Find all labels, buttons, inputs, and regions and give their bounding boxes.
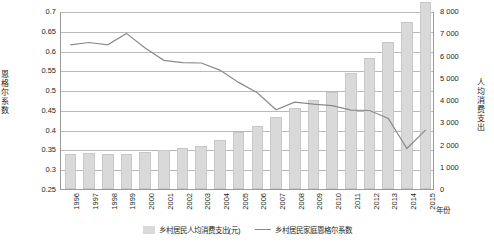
x-axis-tick: 2003: [203, 193, 212, 210]
x-axis-tick: 1998: [110, 193, 119, 210]
y-axis-right-tick: 8 000: [440, 8, 486, 16]
x-axis-tick: 2004: [222, 193, 231, 210]
y-axis-right-tick: 0: [440, 186, 486, 194]
y-axis-right-tick: 1 000: [440, 164, 486, 172]
y-axis-left-tick: 0.4: [16, 127, 56, 135]
legend-item: 乡村居民人均消费支出(元): [143, 224, 241, 235]
x-axis-tick: 1996: [72, 193, 81, 210]
chart-container: 恩格尔系数 人均消费支出 年份 0.70.650.60.550.50.450.4…: [0, 0, 494, 246]
legend-item: 乡村居民家庭恩格尔系数: [255, 224, 352, 235]
x-axis-tick: 2002: [185, 193, 194, 210]
legend-label: 乡村居民人均消费支出(元): [159, 224, 241, 235]
plot-area: [60, 12, 434, 190]
x-axis-tick: 1999: [128, 193, 137, 210]
y-axis-left-tick: 0.3: [16, 166, 56, 174]
x-axis-tick: 2007: [278, 193, 287, 210]
x-axis-title: 年份: [436, 204, 450, 215]
x-axis-tick: 2015: [428, 193, 437, 210]
x-axis-tick: 2001: [166, 193, 175, 210]
x-axis-tick: 2008: [297, 193, 306, 210]
y-axis-left-tick: 0.5: [16, 87, 56, 95]
y-axis-left-tick: 0.35: [16, 146, 56, 154]
y-axis-left-tick: 0.65: [16, 28, 56, 36]
x-axis-tick: 2006: [259, 193, 268, 210]
y-axis-right-tick: 6 000: [440, 53, 486, 61]
line-series: [61, 12, 435, 190]
y-axis-right-tick: 5 000: [440, 75, 486, 83]
x-axis-tick: 2013: [390, 193, 399, 210]
y-axis-left-tick: 0.25: [16, 186, 56, 194]
x-axis-tick: 2010: [334, 193, 343, 210]
x-axis-tick: 2009: [315, 193, 324, 210]
y-axis-right-tick: 7 000: [440, 30, 486, 38]
legend-label: 乡村居民家庭恩格尔系数: [275, 224, 352, 235]
legend-line-swatch-icon: [255, 229, 271, 230]
y-axis-right-tick: 4 000: [440, 97, 486, 105]
y-axis-left-tick: 0.6: [16, 48, 56, 56]
y-axis-left-title: 恩格尔系数: [0, 70, 12, 115]
y-axis-left-tick: 0.55: [16, 67, 56, 75]
x-axis-tick: 2011: [353, 193, 362, 209]
y-axis-right-tick: 2 000: [440, 142, 486, 150]
x-axis-tick: 2000: [147, 193, 156, 210]
y-axis-right-tick: 3 000: [440, 119, 486, 127]
legend-bar-swatch-icon: [143, 226, 155, 234]
engel-coefficient-line: [70, 33, 425, 148]
x-axis-tick: 1997: [91, 193, 100, 210]
y-axis-left-tick: 0.7: [16, 8, 56, 16]
x-axis-tick: 2014: [409, 193, 418, 210]
x-axis-tick: 2012: [372, 193, 381, 210]
x-axis-tick: 2005: [241, 193, 250, 210]
y-axis-left-tick: 0.45: [16, 107, 56, 115]
legend: 乡村居民人均消费支出(元)乡村居民家庭恩格尔系数: [0, 224, 494, 235]
